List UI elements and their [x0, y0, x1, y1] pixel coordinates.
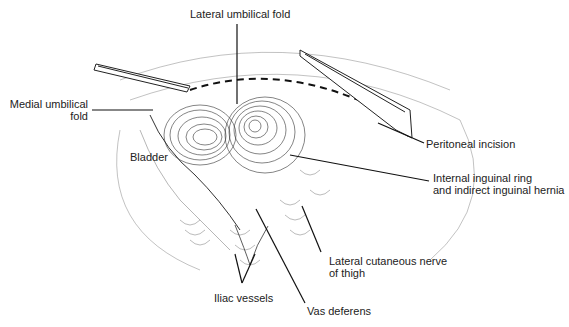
label-lateral-cutaneous-nerve: Lateral cutaneous nerve of thigh [329, 255, 447, 279]
label-internal-inguinal-ring: Internal inguinal ring and indirect ingu… [433, 172, 564, 196]
label-internal-inguinal-ring-line1: Internal inguinal ring [433, 172, 564, 184]
label-medial-umbilical-fold: Medial umbilical fold [6, 98, 88, 122]
label-iliac-vessels: Iliac vessels [214, 292, 273, 304]
label-lateral-cutaneous-nerve-line2: of thigh [329, 267, 447, 279]
label-medial-umbilical-fold-line2: fold [6, 110, 88, 122]
label-internal-inguinal-ring-line2: and indirect inguinal hernia [433, 184, 564, 196]
label-vas-deferens: Vas deferens [307, 305, 371, 317]
label-medial-umbilical-fold-line1: Medial umbilical [6, 98, 88, 110]
label-peritoneal-incision: Peritoneal incision [426, 138, 515, 150]
label-lateral-cutaneous-nerve-line1: Lateral cutaneous nerve [329, 255, 447, 267]
anatomy-illustration [0, 0, 569, 327]
label-lateral-umbilical-fold: Lateral umbilical fold [190, 8, 290, 20]
label-bladder: Bladder [130, 151, 168, 163]
